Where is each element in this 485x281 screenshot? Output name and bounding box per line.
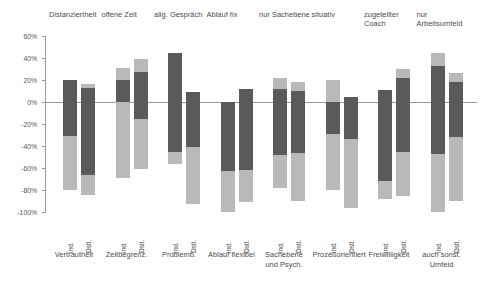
negative-light-segment <box>134 119 148 170</box>
negative-dark-segment <box>168 102 182 152</box>
top-category-label: offene Zeit <box>102 10 137 19</box>
bottom-category-label: Sachebene und Psych. <box>260 250 308 269</box>
bottom-category-label: Vertrautheit <box>50 250 98 260</box>
positive-light-segment <box>449 73 463 82</box>
negative-light-segment <box>449 137 463 201</box>
negative-dark-segment <box>326 102 340 134</box>
bar <box>291 36 305 212</box>
positive-dark-segment <box>273 89 287 102</box>
negative-dark-segment <box>291 102 305 153</box>
bar <box>378 36 392 212</box>
positive-dark-segment <box>239 89 253 102</box>
negative-light-segment <box>63 136 77 190</box>
bar <box>81 36 95 212</box>
bottom-category-label: auch sonst. Umfeld <box>418 250 466 269</box>
y-tick-label: -40% <box>21 143 37 150</box>
bottom-category-label: Freiwilligkeit <box>365 250 413 260</box>
bar <box>134 36 148 212</box>
positive-dark-segment <box>291 91 305 102</box>
bar <box>344 36 358 212</box>
negative-dark-segment <box>378 102 392 181</box>
bar <box>396 36 410 212</box>
negative-dark-segment <box>81 102 95 175</box>
positive-light-segment <box>116 68 130 80</box>
bar <box>221 36 235 212</box>
bar <box>63 36 77 212</box>
positive-dark-segment <box>431 66 445 102</box>
bar <box>168 36 182 212</box>
bar <box>116 36 130 212</box>
positive-dark-segment <box>168 53 182 103</box>
positive-light-segment <box>326 80 340 102</box>
positive-light-segment <box>81 84 95 87</box>
y-tick-mark: 40% <box>42 58 46 59</box>
plot-area: 60%40%20%0%-20%-40%-60%-80%-100% <box>45 36 477 212</box>
top-category-label: Distanziertheit <box>49 10 97 19</box>
bottom-category-label: Problemb. <box>155 250 203 260</box>
negative-light-segment <box>81 175 95 196</box>
negative-light-segment <box>168 152 182 164</box>
top-category-label: nur Sachebene <box>259 10 310 19</box>
y-tick-mark: -100% <box>42 212 46 213</box>
top-category-label: allg. Gespräch <box>154 10 202 19</box>
bar <box>431 36 445 212</box>
positive-light-segment <box>134 59 148 72</box>
negative-dark-segment <box>449 102 463 137</box>
y-tick-label: 0% <box>27 99 37 106</box>
negative-dark-segment <box>431 102 445 154</box>
top-category-label: nur Arbeitsumfeld <box>417 10 463 28</box>
top-category-label: Ablauf fix <box>207 10 238 19</box>
negative-dark-segment <box>396 102 410 152</box>
negative-light-segment <box>396 152 410 196</box>
y-tick-label: 40% <box>23 55 37 62</box>
negative-light-segment <box>239 170 253 202</box>
y-tick-label: -60% <box>21 165 37 172</box>
y-tick-mark: 20% <box>42 80 46 81</box>
negative-light-segment <box>344 139 358 207</box>
zero-baseline <box>45 102 477 103</box>
negative-light-segment <box>221 171 235 212</box>
positive-light-segment <box>291 82 305 91</box>
y-tick-label: -100% <box>17 209 37 216</box>
positive-light-segment <box>396 69 410 78</box>
positive-dark-segment <box>81 88 95 102</box>
negative-light-segment <box>378 181 392 199</box>
y-tick-mark: -40% <box>42 146 46 147</box>
bar <box>273 36 287 212</box>
negative-dark-segment <box>186 102 200 147</box>
positive-dark-segment <box>116 80 130 102</box>
negative-dark-segment <box>273 102 287 155</box>
bar <box>239 36 253 212</box>
bar <box>326 36 340 212</box>
bottom-category-label: Ablauf flexibel <box>208 250 256 260</box>
negative-dark-segment <box>221 102 235 171</box>
negative-light-segment <box>273 155 287 188</box>
positive-dark-segment <box>396 78 410 102</box>
negative-light-segment <box>291 153 305 201</box>
y-tick-mark: 60% <box>42 36 46 37</box>
negative-dark-segment <box>239 102 253 170</box>
negative-light-segment <box>431 154 445 212</box>
top-category-label: situativ <box>312 10 335 19</box>
bottom-category-label: Zeitbegrenz. <box>103 250 151 260</box>
scan-artifact-top-row <box>150 0 410 7</box>
positive-dark-segment <box>449 82 463 102</box>
y-tick-label: 60% <box>23 33 37 40</box>
positive-light-segment <box>431 53 445 66</box>
positive-dark-segment <box>378 90 392 102</box>
positive-dark-segment <box>63 80 77 102</box>
bar <box>449 36 463 212</box>
y-tick-mark: -60% <box>42 168 46 169</box>
top-category-label: zugeteilter Coach <box>364 10 410 28</box>
positive-dark-segment <box>186 92 200 102</box>
bottom-category-label: Prozeßorientiert <box>313 250 361 260</box>
negative-light-segment <box>186 147 200 204</box>
y-tick-mark: -80% <box>42 190 46 191</box>
positive-dark-segment <box>134 72 148 102</box>
negative-dark-segment <box>344 102 358 139</box>
negative-light-segment <box>116 102 130 178</box>
bar <box>186 36 200 212</box>
chart-canvas: Distanziertheitoffene Zeitallg. Gespräch… <box>0 0 485 281</box>
y-tick-mark: -20% <box>42 124 46 125</box>
positive-light-segment <box>273 78 287 89</box>
